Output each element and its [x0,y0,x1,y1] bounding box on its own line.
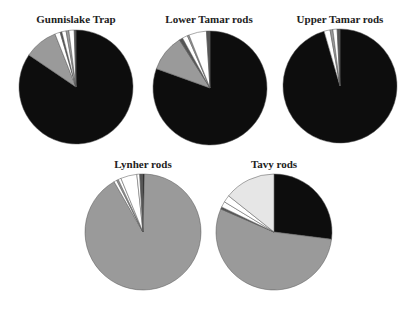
pie-slice [274,174,332,239]
pie-chart-tavy-rods [0,0,411,309]
